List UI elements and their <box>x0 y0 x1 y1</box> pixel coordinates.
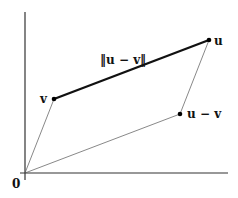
segment-origin-v <box>25 99 54 173</box>
vector-diagram: u v u − v ‖u − v‖ 0 <box>0 0 238 198</box>
point-u-minus-v <box>178 112 183 117</box>
segment-u-minus-v-u <box>180 40 209 114</box>
label-origin: 0 <box>12 177 20 191</box>
label-u-minus-v: u − v <box>187 107 222 121</box>
label-v: v <box>39 92 48 106</box>
point-v <box>52 97 57 102</box>
segment-origin-u-minus-v <box>25 114 180 173</box>
label-norm: ‖u − v‖ <box>100 53 146 67</box>
label-u: u <box>214 34 223 48</box>
point-u <box>207 38 212 43</box>
segment-v-u-norm <box>54 40 209 99</box>
